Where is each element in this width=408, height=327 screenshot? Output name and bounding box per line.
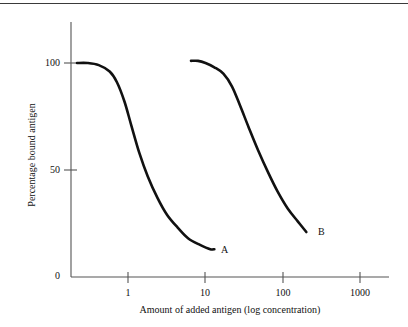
curve-a bbox=[77, 63, 214, 250]
curve-b-label: B bbox=[318, 227, 325, 237]
y-tick-label-100: 100 bbox=[20, 58, 60, 68]
y-axis-label: Percentage bound antigen bbox=[27, 75, 37, 235]
x-axis-label: Amount of added antigen (log concentrati… bbox=[71, 305, 389, 315]
x-tick-label-1000: 1000 bbox=[340, 288, 380, 298]
curve-b bbox=[191, 61, 306, 232]
plot-canvas bbox=[0, 0, 408, 327]
x-tick-label-1: 1 bbox=[108, 288, 148, 298]
curve-a-label: A bbox=[221, 245, 228, 255]
x-tick-label-100: 100 bbox=[263, 288, 303, 298]
figure-container: 100 50 0 1 10 100 1000 Percentage bound … bbox=[0, 0, 408, 327]
x-tick-label-10: 10 bbox=[185, 288, 225, 298]
y-tick-label-0: 0 bbox=[20, 271, 60, 281]
